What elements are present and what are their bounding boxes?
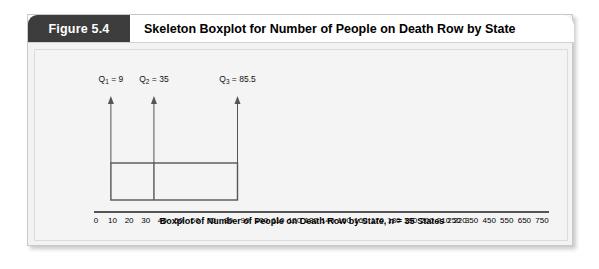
arrow-head-1 xyxy=(108,96,114,104)
boxplot-graphic xyxy=(35,50,569,242)
figure-number-tab: Figure 5.4 xyxy=(28,15,130,43)
figure-header: Figure 5.4 Skeleton Boxplot for Number o… xyxy=(28,15,574,43)
arrow-head-2 xyxy=(151,96,157,104)
boxplot-box xyxy=(111,163,238,200)
plot-panel: Q1 = 9 Q2 = 35 Q3 = 85.5 010203040506070… xyxy=(34,49,568,241)
axis-caption: Boxplot of Number of People on Death Row… xyxy=(35,216,569,226)
figure-screenshot: Figure 5.4 Skeleton Boxplot for Number o… xyxy=(0,0,599,269)
figure-number-label: Figure 5.4 xyxy=(48,22,109,36)
arrow-head-3 xyxy=(235,96,241,104)
figure-title: Skeleton Boxplot for Number of People on… xyxy=(144,15,516,43)
figure-card: Figure 5.4 Skeleton Boxplot for Number o… xyxy=(27,14,573,246)
